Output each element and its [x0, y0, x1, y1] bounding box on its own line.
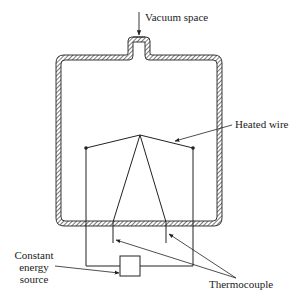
thermocouple-label: Thermocouple	[209, 279, 273, 290]
energy-source-box	[120, 256, 140, 276]
energy-source-arrow	[55, 266, 119, 273]
thermocouple-leads	[113, 135, 166, 243]
vacuum-space-label: Vacuum space	[145, 12, 208, 23]
vessel-wall	[56, 37, 222, 226]
heated-wire-arrow	[175, 125, 232, 141]
heated-wire-label: Heated wire	[235, 119, 288, 130]
energy-source-label-line2: energy	[8, 262, 60, 273]
thermocouple-arrow-right	[169, 234, 236, 278]
energy-source-label-line1: Constant	[8, 250, 60, 261]
support-leads	[86, 148, 193, 266]
energy-source-label-line3: source	[8, 274, 60, 285]
vessel	[56, 37, 222, 226]
